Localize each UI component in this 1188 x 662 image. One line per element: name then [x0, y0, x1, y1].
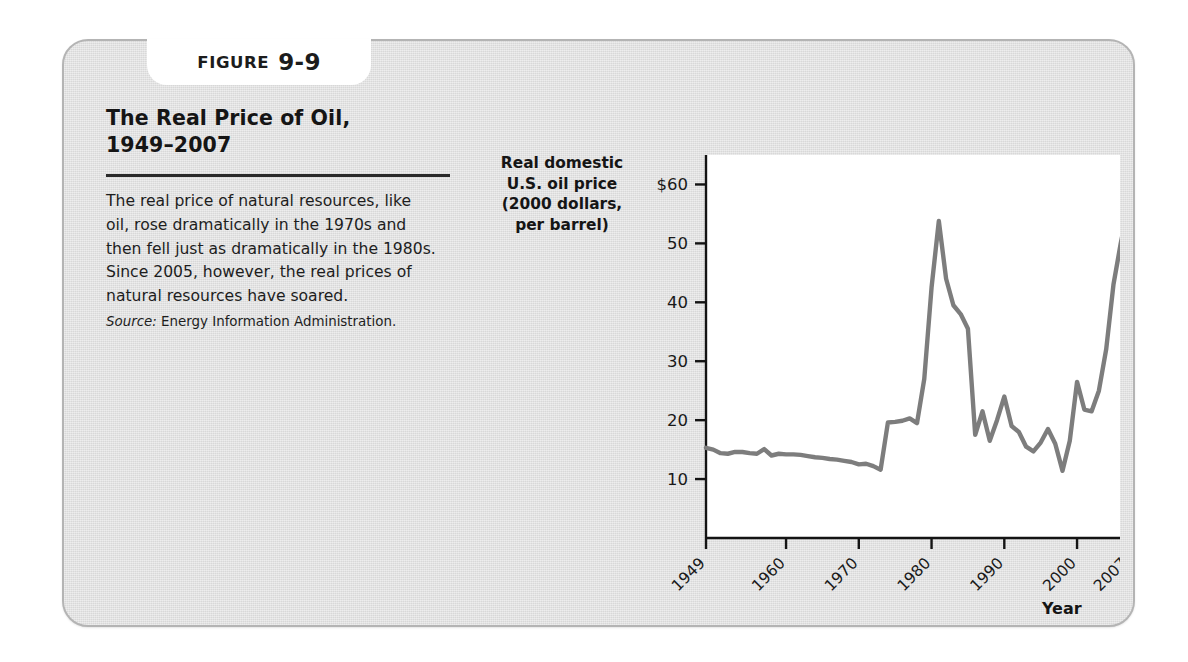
y-tick-label: 10 [667, 470, 688, 489]
x-tick-label: 2007 [1090, 554, 1120, 595]
x-tick-label: 1990 [967, 554, 1008, 595]
title-divider [106, 174, 450, 177]
figure-source-label: Source: [106, 314, 157, 329]
figure-banner: FIGURE 9-9 [147, 39, 371, 85]
y-tick-label: 50 [667, 234, 688, 253]
x-tick-label: 1960 [748, 554, 789, 595]
figure-banner-label: FIGURE [197, 53, 269, 72]
plot-background [706, 155, 1120, 538]
x-axis-title: Year [1042, 599, 1082, 618]
caption-column: The Real Price of Oil, 1949–2007 The rea… [106, 105, 456, 331]
x-tick-label: 1980 [894, 554, 935, 595]
chart-block: Real domestic U.S. oil price (2000 dolla… [480, 111, 1120, 656]
y-tick-label: 40 [667, 293, 688, 312]
x-tick-label: 1949 [668, 554, 709, 595]
figure-card: FIGURE 9-9 The Real Price of Oil, 1949–2… [62, 39, 1135, 627]
oil-price-line-chart: $605040302010 19491960197019801990200020… [480, 111, 1120, 601]
y-tick-label: 20 [667, 411, 688, 430]
y-tick-label: 30 [667, 352, 688, 371]
figure-description: The real price of natural resources, lik… [106, 190, 436, 308]
figure-banner-number: 9-9 [278, 49, 320, 75]
y-axis-ticks: $605040302010 [657, 175, 707, 489]
figure-title: The Real Price of Oil, 1949–2007 [106, 105, 456, 158]
y-tick-label: $60 [657, 175, 689, 194]
figure-source-text: Energy Information Administration. [157, 314, 396, 329]
x-tick-label: 2000 [1039, 554, 1080, 595]
x-tick-label: 1970 [821, 554, 862, 595]
x-axis-ticks: 1949196019701980199020002007 [668, 538, 1120, 595]
figure-source: Source: Energy Information Administratio… [106, 312, 456, 331]
